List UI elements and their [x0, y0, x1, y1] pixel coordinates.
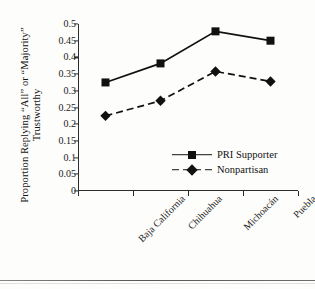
y-tick-mark: [74, 23, 78, 24]
legend-item-nonpartisan: Nonpartisan: [172, 162, 277, 177]
y-tick-mark: [74, 107, 78, 108]
x-tick-label: Baja California: [135, 193, 186, 244]
y-tick-mark: [74, 90, 78, 91]
diamond-marker-icon: [100, 111, 110, 121]
diamond-marker-icon: [186, 164, 197, 175]
page-rule-light: [0, 283, 315, 284]
legend: PRI Supporter Nonpartisan: [172, 147, 277, 177]
y-tick-mark: [74, 140, 78, 141]
x-axis-tick-labels: Baja CaliforniaChihuahuaMichoacánPuebla: [78, 193, 298, 273]
square-marker-icon: [267, 37, 275, 45]
y-tick-mark: [74, 174, 78, 175]
y-axis-title-line2: Trustworthy: [30, 27, 42, 202]
y-tick-mark: [74, 57, 78, 58]
y-axis-title-line1: Proportion Replying “All” or “Majority”: [19, 27, 31, 202]
y-axis-tick-labels: 0.50.450.40.350.30.250.20.150.10.050: [50, 0, 76, 220]
y-axis-title: Proportion Replying “All” or “Majority” …: [10, 12, 50, 217]
page-rule: [0, 280, 315, 282]
y-tick-mark: [74, 157, 78, 158]
series-line-pri-supporter: [106, 31, 271, 82]
square-marker-icon: [188, 151, 196, 159]
diamond-marker-icon: [210, 66, 220, 76]
legend-label-nonpartisan: Nonpartisan: [217, 162, 268, 177]
x-tick-label: Michoacán: [241, 193, 280, 232]
x-tick-mark: [298, 191, 299, 196]
y-tick-mark: [74, 124, 78, 125]
x-tick-label: Puebla: [290, 193, 315, 220]
legend-item-pri-supporter: PRI Supporter: [172, 147, 277, 162]
x-tick-label: Chihuahua: [185, 193, 223, 231]
square-marker-icon: [212, 27, 220, 35]
y-tick-mark: [74, 40, 78, 41]
series-line-nonpartisan: [106, 71, 271, 115]
square-marker-icon: [157, 59, 165, 67]
diamond-marker-icon: [155, 96, 165, 106]
legend-key-dashed-diamond: [172, 163, 212, 177]
figure-chart: Proportion Replying “All” or “Majority” …: [0, 0, 315, 289]
y-tick-mark: [74, 74, 78, 75]
legend-label-pri-supporter: PRI Supporter: [217, 147, 277, 162]
legend-key-solid-square: [172, 148, 212, 162]
square-marker-icon: [102, 78, 110, 86]
diamond-marker-icon: [265, 76, 275, 86]
